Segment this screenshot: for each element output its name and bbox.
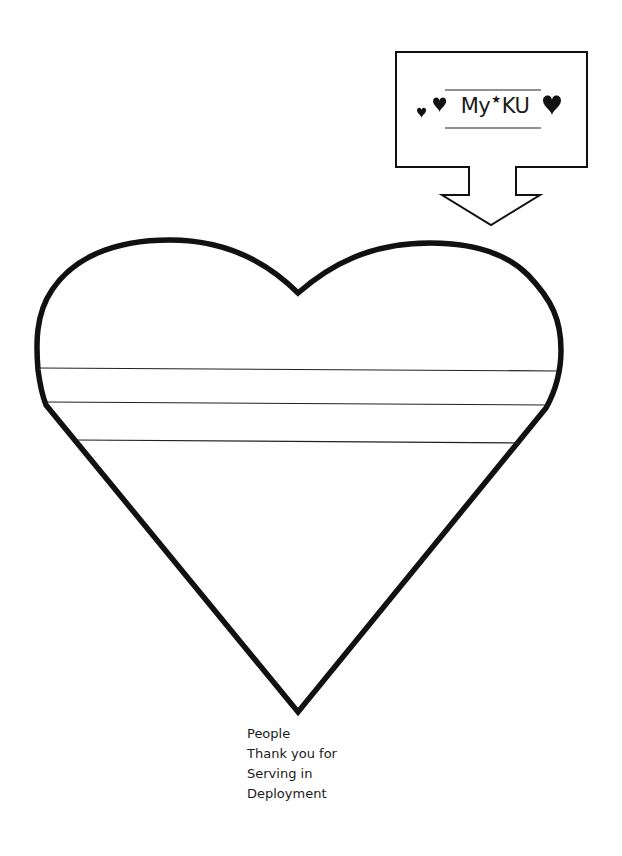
star-icon: ★	[491, 93, 500, 106]
label-text-my: My	[461, 94, 491, 118]
caption-line: Serving in	[247, 764, 337, 784]
label-box-arrow	[396, 52, 587, 225]
caption-line: People	[247, 724, 337, 744]
caption-line: Deployment	[247, 784, 337, 804]
caption: People Thank you for Serving in Deployme…	[247, 724, 337, 804]
heart-outline	[37, 240, 561, 712]
label-text-ku: KU	[502, 94, 530, 118]
label-box-title: My ★ KU	[445, 88, 545, 124]
caption-line: Thank you for	[247, 744, 337, 764]
